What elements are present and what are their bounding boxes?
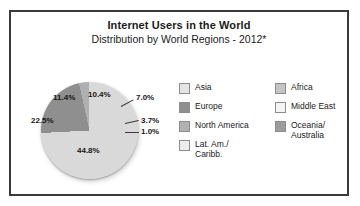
legend-label-europe: Europe: [195, 101, 222, 112]
callout-label-oceania: 1.0%: [141, 127, 159, 136]
legend-item-north-america[interactable]: North America: [179, 120, 271, 133]
chart-frame: Internet Users in the World Distribution…: [9, 10, 349, 196]
slice-label-latam: 10.4%: [88, 90, 111, 99]
callout-label-middle-east: 3.7%: [141, 116, 159, 125]
leader-line-oceania: [125, 132, 139, 133]
legend-swatch-africa: [275, 83, 286, 94]
footnote: [11, 199, 311, 205]
legend-label-latam: Lat. Am./ Caribb.: [195, 139, 229, 159]
legend-item-africa[interactable]: Africa: [275, 82, 355, 95]
pie-chart: 44.8% 22.5% 11.4% 10.4% 7.0% 3.7% 1.0%: [33, 72, 173, 192]
legend-label-africa: Africa: [291, 82, 313, 93]
slice-label-asia: 44.8%: [77, 146, 100, 155]
legend-label-oceania: Oceania/ Australia: [291, 120, 325, 140]
title-block: Internet Users in the World Distribution…: [11, 19, 347, 46]
legend-item-latam[interactable]: Lat. Am./ Caribb.: [179, 139, 271, 159]
slice-label-north-america: 11.4%: [53, 93, 75, 102]
legend-label-asia: Asia: [195, 82, 212, 93]
legend-swatch-asia: [179, 83, 190, 94]
chart-subtitle: Distribution by World Regions - 2012*: [11, 33, 347, 46]
legend-column-right: Africa Middle East Oceania/ Australia: [275, 82, 355, 146]
legend: Asia Europe North America Lat. Am./ Cari…: [179, 82, 355, 178]
legend-item-asia[interactable]: Asia: [179, 82, 271, 95]
legend-label-north-america: North America: [195, 120, 249, 131]
legend-swatch-north-america: [179, 121, 190, 132]
legend-swatch-middle-east: [275, 102, 286, 113]
legend-item-oceania[interactable]: Oceania/ Australia: [275, 120, 355, 140]
legend-item-middle-east[interactable]: Middle East: [275, 101, 355, 114]
slice-label-europe: 22.5%: [31, 116, 54, 125]
legend-swatch-europe: [179, 102, 190, 113]
callout-label-africa: 7.0%: [136, 93, 154, 102]
legend-label-middle-east: Middle East: [291, 101, 335, 112]
legend-column-left: Asia Europe North America Lat. Am./ Cari…: [179, 82, 271, 165]
page-title: Internet Users in the World: [11, 19, 347, 32]
legend-swatch-oceania: [275, 121, 286, 132]
legend-swatch-latam: [179, 140, 190, 151]
legend-item-europe[interactable]: Europe: [179, 101, 271, 114]
